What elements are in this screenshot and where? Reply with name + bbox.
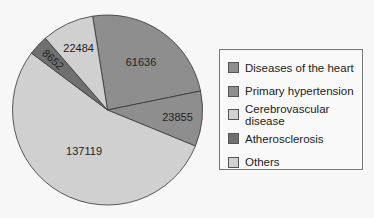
legend-item-atherosclerosis: Atherosclerosis <box>228 127 362 151</box>
legend-item-hypertension: Primary hypertension <box>228 80 362 104</box>
slice-label: 22484 <box>63 42 94 54</box>
legend-label: Cerebrovascular disease <box>245 103 362 127</box>
legend-label: Atherosclerosis <box>245 133 324 145</box>
legend-label: Diseases of the heart <box>245 62 354 74</box>
pie-chart: 6163623855137119865222484 <box>0 0 220 218</box>
legend-label: Primary hypertension <box>245 85 354 97</box>
legend: Diseases of the heart Primary hypertensi… <box>219 49 363 170</box>
legend-item-others: Others <box>228 150 362 174</box>
legend-swatch <box>228 109 239 120</box>
legend-swatch <box>228 157 239 168</box>
slice-label: 137119 <box>66 145 102 157</box>
legend-item-heart: Diseases of the heart <box>228 56 362 80</box>
slice-label: 61636 <box>126 56 157 68</box>
legend-swatch <box>228 133 239 144</box>
legend-item-cerebrovascular: Cerebrovascular disease <box>228 103 362 127</box>
legend-swatch <box>228 62 239 73</box>
legend-swatch <box>228 86 239 97</box>
slice-label: 23855 <box>162 111 193 123</box>
legend-label: Others <box>245 156 280 168</box>
